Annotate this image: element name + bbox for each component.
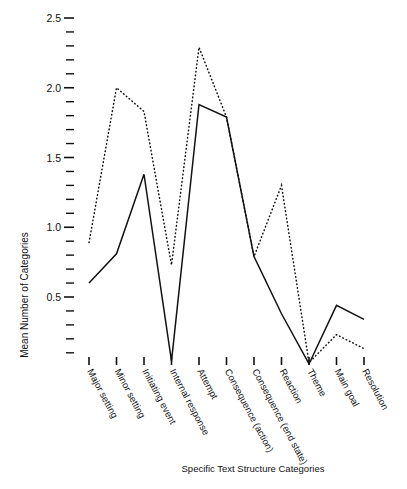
y-axis-tick-label: 1.5 <box>46 152 61 164</box>
series-line-dotted <box>89 47 364 362</box>
chart-container: 2.52.01.51.00.5 Major settingMinor setti… <box>0 0 407 489</box>
x-axis-category-label: Resolution <box>360 367 391 412</box>
x-axis-category-label: Main goal <box>333 367 362 409</box>
y-axis-tick-label: 2.5 <box>46 12 61 24</box>
x-axis-category-label: Theme <box>305 367 329 398</box>
x-axis-title: Specific Text Structure Categories <box>182 463 325 474</box>
x-axis-ticks <box>89 357 364 365</box>
line-chart: 2.52.01.51.00.5 Major settingMinor setti… <box>0 0 407 489</box>
y-axis-tick-label: 2.0 <box>46 82 61 94</box>
y-axis-minor-ticks <box>66 32 74 353</box>
x-axis-category-label: Consequence (action) <box>223 367 276 454</box>
x-axis-category-label: Reaction <box>278 367 305 405</box>
series-line-solid <box>89 104 364 363</box>
y-axis-tick-labels: 2.52.01.51.00.5 <box>46 12 61 303</box>
y-axis-title: Mean Number of Categories <box>19 232 30 358</box>
y-axis-tick-label: 1.0 <box>46 221 61 233</box>
y-axis-tick-label: 0.5 <box>46 291 61 303</box>
x-axis-category-label: Attempt <box>195 367 220 401</box>
x-axis-category-labels: Major settingMinor settingInitiating eve… <box>85 367 391 466</box>
